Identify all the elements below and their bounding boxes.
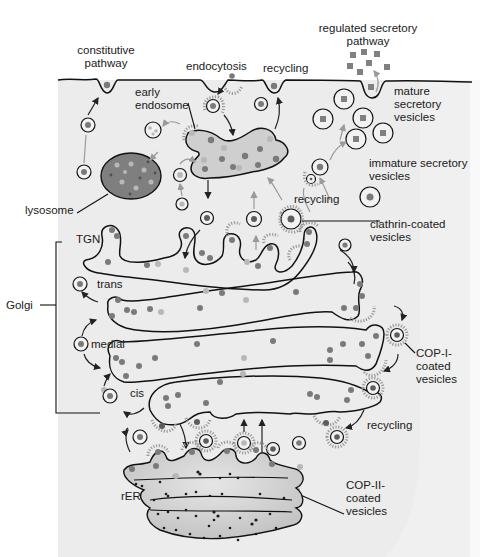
cell-illustration (0, 0, 480, 557)
label-golgi: Golgi (6, 299, 33, 312)
label-cis: cis (130, 387, 144, 400)
label-mature-secretory-vesicles: mature secretory vesicles (394, 85, 441, 124)
label-medial: medial (91, 338, 125, 351)
label-immature-secretory-vesicles: immature secretory vesicles (369, 157, 467, 183)
label-regulated-secretory-pathway: regulated secretory pathway (313, 22, 423, 48)
label-recycling-top: recycling (263, 62, 308, 75)
label-endocytosis: endocytosis (186, 60, 247, 73)
label-early-endosome: early endosome (135, 86, 189, 112)
diagram-canvas: constitutive pathway endocytosis recycli… (0, 0, 480, 557)
label-cop2-coated-vesicles: COP-II- coated vesicles (346, 479, 387, 518)
label-recycling-bottom: recycling (367, 419, 412, 432)
label-rer: rER (121, 490, 141, 503)
lysosome (101, 153, 161, 199)
label-recycling-middle: recycling (294, 193, 339, 206)
label-cop1-coated-vesicles: COP-I- coated vesicles (416, 347, 457, 386)
label-lysosome: lysosome (25, 204, 74, 217)
label-trans: trans (97, 278, 123, 291)
label-tgn: TGN (76, 233, 100, 246)
label-constitutive-pathway: constitutive pathway (76, 44, 136, 70)
label-clathrin-coated-vesicles: clathrin-coated vesicles (370, 218, 445, 244)
